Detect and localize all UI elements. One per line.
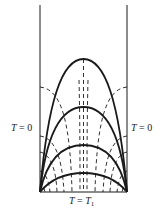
label-eq: = (17, 122, 28, 133)
label-eq: = (137, 122, 148, 133)
label-value: 0 (147, 122, 152, 133)
strip-diagram (0, 0, 163, 213)
right-wall-label: T = 0 (131, 122, 152, 133)
label-value: 0 (27, 122, 32, 133)
flow-lines (40, 59, 127, 192)
label-subscript: 1 (91, 200, 95, 208)
label-eq: = (75, 195, 86, 206)
left-wall-label: T = 0 (11, 122, 32, 133)
base-label: T = T1 (69, 195, 94, 208)
